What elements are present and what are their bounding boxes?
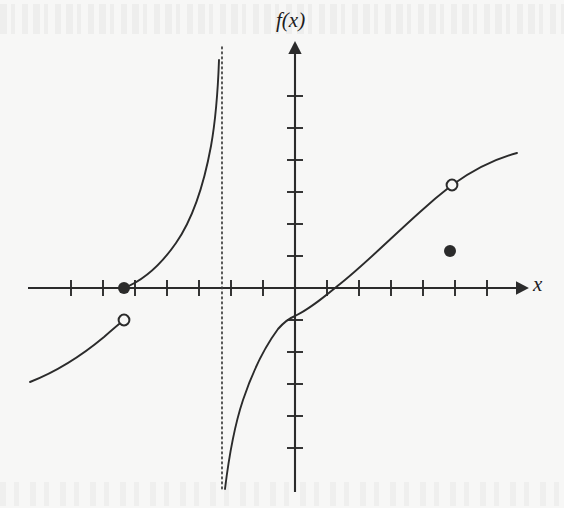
figure-canvas: f(x) x: [0, 0, 564, 508]
y-axis-label: f(x): [276, 8, 305, 33]
axes: [28, 52, 518, 492]
closed-point-isolated: [444, 245, 456, 257]
open-point-lower-left: [119, 315, 130, 326]
open-point-on-right-branch: [447, 180, 458, 191]
function-graph: [0, 0, 564, 508]
curve-upper-left-branch: [124, 60, 219, 288]
closed-point-on-x-axis: [118, 282, 130, 294]
x-axis-label: x: [533, 272, 542, 297]
curve-lower-left-branch: [30, 320, 124, 382]
curve-right-branch: [225, 153, 517, 489]
